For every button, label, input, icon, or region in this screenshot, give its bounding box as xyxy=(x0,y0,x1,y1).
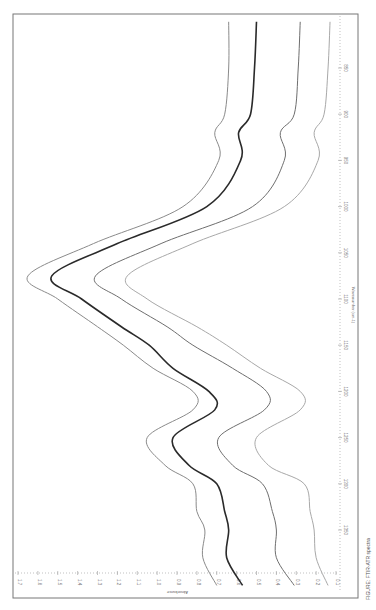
plot-frame xyxy=(13,14,358,598)
absorbance-tick-label: 1.3 xyxy=(97,579,102,586)
wavenumber-tick-label: 1300 xyxy=(343,479,348,490)
absorbance-tick-label: 1.5 xyxy=(57,579,62,586)
figure-caption: FIGURE: FTIR-ATR spectra xyxy=(365,538,371,600)
spectrum-line-4 xyxy=(125,22,330,586)
absorbance-tick-label: 0.8 xyxy=(196,579,201,586)
ftir-spectra-chart: 1.71.61.51.41.31.21.11.00.90.80.70.60.50… xyxy=(0,0,376,610)
wavenumber-tick-label: 1050 xyxy=(343,248,348,259)
absorbance-tick-label: 0.5 xyxy=(256,579,261,586)
absorbance-tick-label: 0.3 xyxy=(295,579,300,586)
absorbance-tick-label: 1.0 xyxy=(156,579,161,586)
spectra-lines xyxy=(27,22,330,586)
wavenumber-tick-label: 900 xyxy=(343,110,348,118)
wavenumber-axis-title: Wavenumber (cm-1) xyxy=(351,287,356,324)
absorbance-tick-label: 0.1 xyxy=(335,579,340,586)
wavenumber-tick-label: 1000 xyxy=(343,202,348,213)
absorbance-tick-label: 0.9 xyxy=(176,579,181,586)
absorbance-tick-label: 1.1 xyxy=(136,579,141,586)
wavenumber-tick-label: 1100 xyxy=(343,294,348,304)
wavenumber-tick-label: 1200 xyxy=(343,386,348,397)
wavenumber-tick-label: 1350 xyxy=(343,525,348,536)
absorbance-tick-label: 1.6 xyxy=(37,579,42,586)
absorbance-tick-label: 0.4 xyxy=(275,579,280,586)
wavenumber-tick-label: 950 xyxy=(343,157,348,165)
absorbance-tick-label: 1.2 xyxy=(116,579,121,586)
absorbance-tick-label: 1.7 xyxy=(17,579,22,586)
absorbance-tick-label: 0.2 xyxy=(315,579,320,586)
spectrum-line-3 xyxy=(94,22,300,586)
absorbance-axis-title: Absorbance xyxy=(166,590,188,595)
wavenumber-tick-label: 850 xyxy=(343,64,348,72)
wavenumber-tick-labels: 8509009501000105011001150120012501300135… xyxy=(338,64,348,535)
wavenumber-tick-label: 1250 xyxy=(343,433,348,444)
wavenumber-tick-label: 1150 xyxy=(343,340,348,350)
absorbance-tick-label: 1.4 xyxy=(77,579,82,586)
